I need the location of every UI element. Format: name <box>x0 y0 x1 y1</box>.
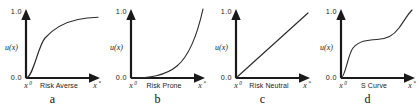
y-tick-bottom: 0.0 <box>326 73 337 82</box>
figure-utility-curves: 1.0 0.0 u(x) Risk Averse x 0 x * a 1.0 0… <box>0 0 420 106</box>
x-axis-origin-var: x <box>233 81 238 90</box>
x-axis-end-var-sup: * <box>98 80 101 86</box>
x-axis-origin-var-sup: 0 <box>344 80 347 86</box>
x-axis-caption: Risk Prone <box>146 82 181 89</box>
x-axis-end-var: x <box>302 81 307 90</box>
x-axis-origin-var: x <box>128 81 133 90</box>
x-axis-origin-var: x <box>23 81 28 90</box>
curve-risk-averse <box>26 17 98 78</box>
y-tick-top: 1.0 <box>11 7 22 16</box>
panel-b-plot: 1.0 0.0 u(x) Risk Prone x 0 x * <box>105 0 210 92</box>
panel-letter-a: a <box>0 93 105 105</box>
panel-s-curve: 1.0 0.0 u(x) S Curve x 0 x * d <box>315 0 420 106</box>
x-axis-end-var: x <box>197 81 202 90</box>
panel-letter-b: b <box>105 93 210 105</box>
curve-risk-neutral <box>236 13 308 78</box>
panel-letter-c: c <box>210 93 315 105</box>
panel-letter-d: d <box>315 93 420 105</box>
x-axis-end-var-sup: * <box>413 80 416 86</box>
x-axis-caption: S Curve <box>361 82 387 89</box>
x-axis-end-var-sup: * <box>308 80 311 86</box>
y-tick-bottom: 0.0 <box>221 73 232 82</box>
y-tick-bottom: 0.0 <box>11 73 22 82</box>
x-axis-caption: Risk Neutral <box>249 82 289 89</box>
y-axis-arrow-icon <box>21 9 30 20</box>
curve-s-shape <box>341 10 412 78</box>
panel-risk-prone: 1.0 0.0 u(x) Risk Prone x 0 x * b <box>105 0 210 106</box>
panel-risk-averse: 1.0 0.0 u(x) Risk Averse x 0 x * a <box>0 0 105 106</box>
y-axis-arrow-icon <box>231 9 240 20</box>
y-tick-top: 1.0 <box>326 7 337 16</box>
y-tick-top: 1.0 <box>221 7 232 16</box>
panel-d-plot: 1.0 0.0 u(x) S Curve x 0 x * <box>315 0 420 92</box>
x-axis-origin-var-sup: 0 <box>134 80 137 86</box>
y-axis-arrow-icon <box>336 9 345 20</box>
y-axis-label: u(x) <box>110 43 123 52</box>
panel-c-plot: 1.0 0.0 u(x) Risk Neutral x 0 x * <box>210 0 315 92</box>
y-axis-label: u(x) <box>215 43 228 52</box>
x-axis-end-var: x <box>92 81 97 90</box>
curve-risk-prone <box>131 9 203 78</box>
x-axis-end-var-sup: * <box>203 80 206 86</box>
x-axis-origin-var: x <box>338 81 343 90</box>
y-axis-arrow-icon <box>126 9 135 20</box>
x-axis-origin-var-sup: 0 <box>29 80 32 86</box>
panel-a-plot: 1.0 0.0 u(x) Risk Averse x 0 x * <box>0 0 105 92</box>
y-tick-top: 1.0 <box>116 7 127 16</box>
panel-risk-neutral: 1.0 0.0 u(x) Risk Neutral x 0 x * c <box>210 0 315 106</box>
x-axis-end-var: x <box>407 81 412 90</box>
y-axis-label: u(x) <box>5 43 18 52</box>
x-axis-origin-var-sup: 0 <box>239 80 242 86</box>
x-axis-caption: Risk Averse <box>40 82 78 89</box>
y-tick-bottom: 0.0 <box>116 73 127 82</box>
y-axis-label: u(x) <box>320 43 333 52</box>
